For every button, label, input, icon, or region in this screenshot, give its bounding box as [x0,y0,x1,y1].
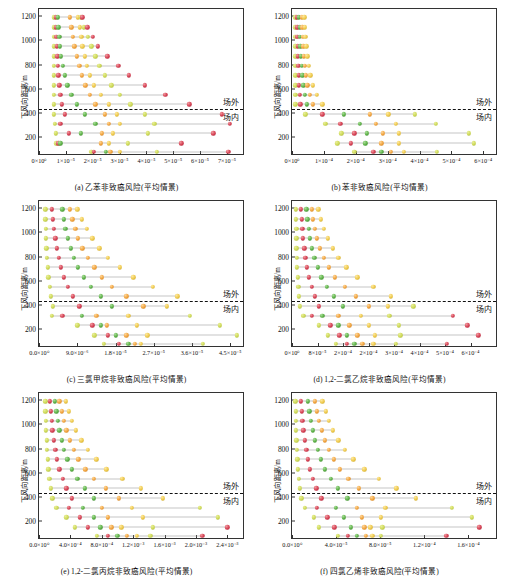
data-point [132,341,136,345]
data-point [80,15,84,19]
x-tick-mark [292,151,293,154]
data-point [317,525,321,529]
data-point [119,525,123,529]
data-point [82,112,86,116]
data-point [127,73,131,77]
data-point [70,467,74,471]
data-point [81,506,85,510]
data-point [53,131,57,135]
y-tick-mark [292,472,295,473]
data-point [59,265,63,269]
data-point [331,428,335,432]
data-point [80,246,84,250]
data-point [471,141,475,145]
data-point [358,314,362,318]
data-point [74,54,78,58]
data-point [385,304,389,308]
data-point [55,457,59,461]
data-point [294,227,298,231]
data-point [413,496,417,500]
y-tick-mark [292,304,295,305]
data-point [82,486,86,490]
panel-caption: (a) 乙苯非致癌风险(平均情景) [0,181,253,192]
data-point [376,477,380,481]
x-tick-label: 3×10⁻⁵ [111,157,129,164]
data-point [125,141,129,145]
data-point [341,304,345,308]
data-point [89,44,93,48]
x-tick-label: 0×10⁰ [32,157,47,164]
data-point [108,149,112,153]
data-point [319,496,323,500]
data-point [79,438,83,442]
data-point [315,236,319,240]
data-point [295,256,299,260]
site-boundary-line [39,301,243,302]
y-tick-mark [39,304,42,305]
data-point [311,83,315,87]
data-point [297,477,301,481]
data-point [139,341,143,345]
data-point [304,448,308,452]
data-point [43,409,47,413]
x-tick-mark [324,151,325,154]
zone-label-outside: 场外 [476,481,492,492]
data-point [57,428,61,432]
data-point [393,341,397,345]
panel-caption: (c) 三氯甲烷非致癌风险(平均情景) [0,373,253,384]
data-point [128,102,132,106]
data-point [67,409,71,413]
y-tick-mark [39,88,42,89]
data-point [303,112,307,116]
data-point [65,83,69,87]
data-point [315,265,319,269]
plot-area: 200400600800100012000×10⁰1×10⁻⁵2×10⁻⁵3×1… [38,8,244,155]
row-connector-line [55,123,229,124]
y-tick-mark [39,472,42,473]
data-point [60,477,64,481]
plot-area: 200400600800100012000×10⁰8×10⁻⁵2×10⁻⁴2×1… [291,200,497,347]
data-point [467,131,471,135]
data-point [57,399,61,403]
row-connector-line [337,143,473,144]
data-point [294,246,298,250]
site-boundary-line [39,493,243,494]
data-point [293,399,297,403]
data-point [296,275,300,279]
data-point [92,496,96,500]
data-point [450,506,454,510]
data-point [83,467,87,471]
data-point [308,73,312,77]
data-point [313,294,317,298]
data-point [357,122,361,126]
data-point [326,265,330,269]
site-boundary-line [292,493,496,494]
data-point [75,207,79,211]
data-point [371,341,375,345]
data-point [69,246,73,250]
data-point [188,314,192,318]
y-tick-label: 800 [278,252,289,261]
data-point [234,333,238,337]
data-point [68,15,72,19]
data-point [311,515,315,519]
x-tick-mark [292,535,293,538]
data-point [306,275,310,279]
y-tick-label: 600 [25,84,36,93]
y-tick-mark [292,232,295,233]
data-point [81,275,85,279]
data-point [323,438,327,442]
data-point [364,533,368,537]
data-point [145,333,149,337]
y-tick-label: 600 [25,276,36,285]
data-point [345,496,349,500]
panel-caption: (e) 1,2-二氯丙烷非致癌风险(平均情景) [0,565,253,576]
data-point [394,486,398,490]
x-tick-label: 1.6×10⁻⁴ [457,541,480,548]
data-point [90,35,94,39]
data-point [117,122,121,126]
data-point [355,275,359,279]
data-point [325,515,329,519]
y-tick-mark [39,232,42,233]
y-tick-label: 200 [25,517,36,526]
